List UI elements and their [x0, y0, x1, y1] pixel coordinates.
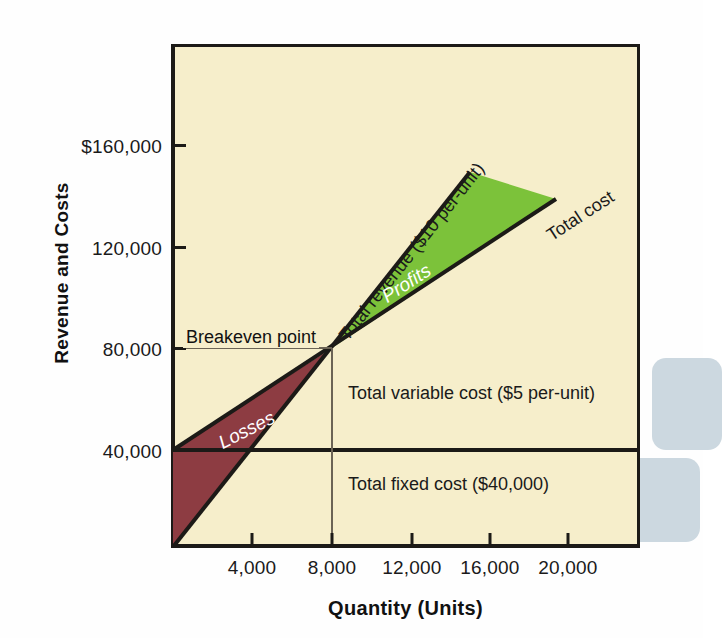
ytick-label-80000: 80,000	[22, 339, 162, 361]
ytick-label-120000: 120,000	[22, 238, 162, 260]
breakeven-point-label: Breakeven point	[183, 327, 319, 348]
y-axis-title: Revenue and Costs	[51, 143, 73, 403]
ytick-mark	[173, 449, 186, 452]
ytick-mark	[173, 246, 186, 249]
x-axis-title: Quantity (Units)	[171, 597, 640, 620]
ytick-label-160000: $160,000	[22, 136, 162, 158]
total-variable-cost-label: Total variable cost ($5 per-unit)	[348, 383, 595, 404]
xtick-label-20000: 20,000	[508, 557, 628, 579]
ytick-mark	[173, 144, 186, 147]
ytick-label-40000: 40,000	[22, 441, 162, 463]
decorative-tab-upper	[652, 358, 722, 450]
total-fixed-cost-label: Total fixed cost ($40,000)	[348, 474, 549, 495]
